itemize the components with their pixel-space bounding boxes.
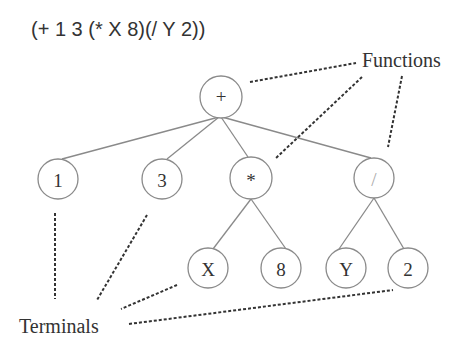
node-plus: + [200,76,242,118]
pointer-functions-times [276,77,362,158]
expression-tree-diagram: + 1 3 * / X 8 Y 2 Functions Terminals [0,0,470,357]
node-2: 2 [388,248,428,288]
node-label: 8 [276,259,286,280]
pointer-terminals-x [121,285,177,309]
node-label: / [371,169,377,190]
node-times: * [230,157,272,199]
pointer-functions-plus [250,63,356,82]
edge-div-y [339,198,374,249]
node-1: 1 [38,159,78,199]
node-x: X [188,248,228,288]
node-y: Y [326,248,366,288]
node-label: + [216,86,227,107]
node-label: Y [339,259,353,280]
edge-div-2 [374,198,404,249]
node-label: * [246,170,256,191]
node-label: 3 [157,170,167,191]
node-label: 1 [53,170,63,191]
pointer-functions-div [388,76,402,147]
edge-plus-1 [62,117,219,159]
terminals-caption: Terminals [19,315,99,337]
edge-times-8 [251,199,286,249]
node-8: 8 [261,248,301,288]
function-pointers [250,63,402,158]
edge-times-x [213,199,251,249]
node-3: 3 [142,159,182,199]
node-div: / [354,158,394,198]
pointer-terminals-3 [97,215,147,300]
pointer-terminals-2 [129,290,393,324]
functions-caption: Functions [362,49,441,71]
node-label: 2 [403,259,413,280]
node-label: X [201,259,215,280]
